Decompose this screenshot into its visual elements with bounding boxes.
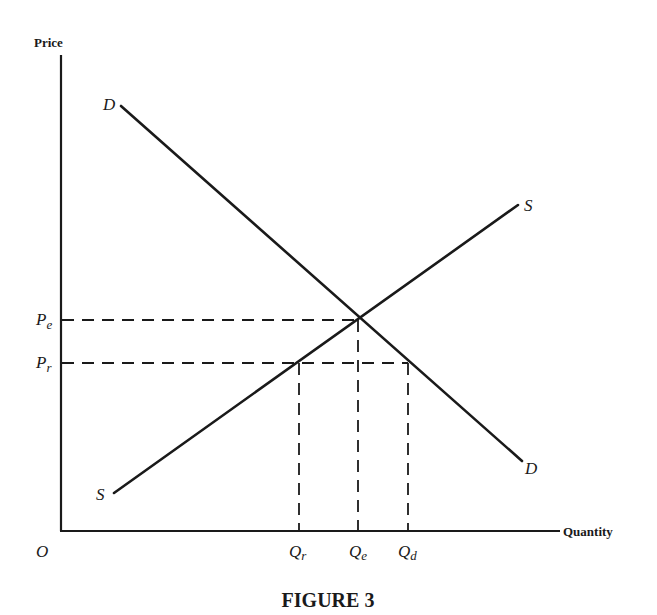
qd-label: Qd [398, 542, 417, 563]
x-axis-label: Quantity [563, 524, 613, 539]
supply-demand-diagram: Price Quantity O D D S S Pe Pr Qr Qe Qd … [0, 0, 657, 615]
figure-caption: FIGURE 3 [282, 589, 375, 611]
demand-curve [121, 106, 522, 461]
qr-label: Qr [289, 542, 307, 563]
pr-label: Pr [35, 353, 52, 375]
qe-label: Qe [349, 542, 367, 563]
supply-label-start: S [96, 485, 105, 504]
supply-label-end: S [524, 196, 533, 215]
demand-label-end: D [524, 459, 538, 478]
demand-label-start: D [102, 95, 116, 114]
supply-curve [114, 205, 518, 493]
y-axis-label: Price [34, 35, 63, 50]
origin-label: O [36, 542, 48, 561]
pe-label: Pe [35, 310, 52, 332]
